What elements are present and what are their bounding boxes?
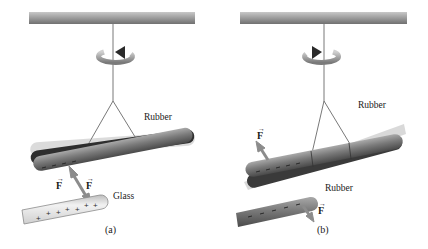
ceiling-bar — [29, 12, 195, 24]
nearby-rod-label-a: Glass — [113, 191, 134, 201]
rotation-arrow-cw-icon — [305, 46, 339, 62]
panel-a-illustration: + + + + + + + — [0, 0, 214, 249]
svg-text:+: + — [84, 201, 89, 210]
svg-text:+: + — [65, 205, 70, 214]
svg-text:+: + — [46, 209, 51, 218]
suspended-rod-label-a: Rubber — [144, 112, 172, 122]
svg-text:+: + — [56, 208, 61, 217]
rotation-arrow-ccw-icon — [98, 46, 132, 62]
nearby-rod-label-b: Rubber — [325, 183, 353, 193]
suspended-rod-label-b: Rubber — [358, 100, 386, 110]
force-label-b-2: →F — [318, 205, 324, 216]
svg-text:+: + — [75, 205, 80, 214]
panel-b: Rubber Rubber →F →F (b) — [214, 0, 428, 249]
ceiling-bar — [240, 12, 407, 24]
svg-text:+: + — [36, 214, 41, 223]
force-label-b-1: →F — [257, 130, 263, 141]
svg-text:+: + — [93, 201, 98, 210]
force-arrow-upper-b — [256, 141, 268, 160]
glass-rod: + + + + + + + — [22, 195, 108, 224]
suspended-rubber-rod-b — [244, 133, 404, 178]
force-label-a-1: →F — [56, 180, 62, 191]
panel-caption-a: (a) — [105, 224, 116, 235]
force-label-a-2: →F — [86, 180, 92, 191]
panel-caption-b: (b) — [317, 224, 329, 235]
panel-a: + + + + + + + Rubber Glass →F →F (a) — [0, 0, 214, 249]
